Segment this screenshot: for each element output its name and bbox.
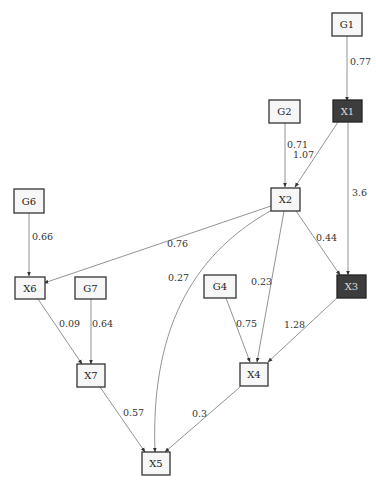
node-label: X1 <box>341 106 354 117</box>
path-diagram: 0.77 0.71 1.07 3.6 0.66 0.76 0.27 0.23 0… <box>0 0 376 487</box>
node-g1[interactable]: G1 <box>332 13 362 36</box>
edge-label-x7-x5: 0.57 <box>123 407 144 418</box>
node-label: X6 <box>23 283 36 294</box>
edge-label-x4-x5: 0.3 <box>192 408 207 419</box>
edge-x6-x7 <box>38 299 82 364</box>
edge-label-x1-x3: 3.6 <box>352 187 367 198</box>
edges <box>29 36 348 452</box>
node-label: G1 <box>340 19 354 30</box>
node-label: G6 <box>22 196 36 207</box>
edge-x2-x6 <box>44 206 271 283</box>
node-g4[interactable]: G4 <box>204 275 236 298</box>
edge-label-x2-x4: 0.23 <box>251 276 272 287</box>
node-label: G7 <box>83 283 97 294</box>
node-label: X7 <box>84 370 97 381</box>
edge-label-g4-x4: 0.75 <box>236 318 257 329</box>
edge-label-x2-x5: 0.27 <box>168 272 189 283</box>
node-label: G4 <box>213 281 227 292</box>
node-x4[interactable]: X4 <box>240 363 268 386</box>
edge-label-x6-x7: 0.09 <box>59 318 80 329</box>
node-label: G2 <box>277 106 291 117</box>
node-label: X3 <box>345 281 358 292</box>
edge-g4-x4 <box>226 298 250 362</box>
node-g2[interactable]: G2 <box>269 100 300 123</box>
edge-x2-x3 <box>296 211 340 275</box>
edge-x3-x4 <box>268 298 337 362</box>
node-label: X4 <box>247 369 260 380</box>
edge-label-g7-x7: 0.64 <box>92 318 113 329</box>
edge-label-x2-x6: 0.76 <box>167 238 188 249</box>
node-x5[interactable]: X5 <box>142 452 170 475</box>
node-g7[interactable]: G7 <box>75 277 106 299</box>
node-x7[interactable]: X7 <box>77 364 105 387</box>
node-x3[interactable]: X3 <box>337 275 366 298</box>
node-label: X2 <box>279 194 292 205</box>
node-x1[interactable]: X1 <box>333 100 362 122</box>
edge-x4-x5 <box>165 387 240 452</box>
node-g6[interactable]: G6 <box>14 189 44 213</box>
node-x2[interactable]: X2 <box>271 188 300 211</box>
edge-label-x1-x2: 1.07 <box>293 149 314 160</box>
node-x6[interactable]: X6 <box>15 277 45 299</box>
node-label: X5 <box>149 458 162 469</box>
edge-label-g6-x6: 0.66 <box>32 231 53 242</box>
edge-label-g1-x1: 0.77 <box>350 56 371 67</box>
edge-label-x2-x3: 0.44 <box>316 232 337 243</box>
edge-x7-x5 <box>100 387 145 452</box>
edge-label-x3-x4: 1.28 <box>284 319 305 330</box>
